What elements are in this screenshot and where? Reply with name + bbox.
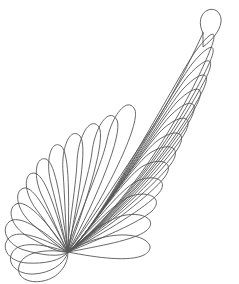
feather-spine xyxy=(68,33,203,252)
right-plume-group xyxy=(68,34,214,259)
left-plume-1 xyxy=(10,245,68,274)
artboard xyxy=(0,0,239,284)
tip-teardrop-icon xyxy=(200,9,221,47)
right-plume-9 xyxy=(68,89,200,252)
right-plume-13 xyxy=(68,34,214,252)
feather-plume-illustration xyxy=(0,0,239,284)
